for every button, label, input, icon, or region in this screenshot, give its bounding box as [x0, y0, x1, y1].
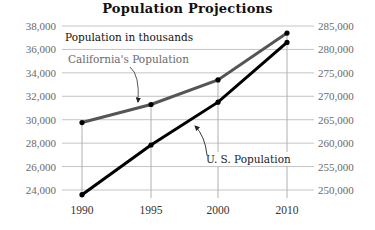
- left-axis-tick: 28,000: [26, 137, 57, 149]
- california-data-point: [79, 120, 84, 125]
- line-chart: 38,000285,00036,000280,00034,000275,0003…: [0, 0, 375, 230]
- x-axis-tick: 2000: [207, 204, 230, 216]
- us-data-point: [284, 40, 289, 45]
- x-axis-tick: 2010: [276, 204, 299, 216]
- left-axis-tick: 38,000: [26, 20, 57, 32]
- left-axis-tick: 36,000: [26, 43, 57, 55]
- right-axis-tick: 270,000: [318, 90, 354, 102]
- california-data-point: [148, 102, 153, 107]
- california-label: California's Population: [68, 53, 189, 65]
- us-data-point: [215, 100, 220, 105]
- us-data-point: [148, 142, 153, 147]
- california-population-line: [82, 33, 287, 122]
- left-axis-tick: 34,000: [26, 67, 57, 79]
- left-axis-tick: 24,000: [26, 184, 57, 196]
- right-axis-tick: 275,000: [318, 67, 354, 79]
- left-axis-tick: 30,000: [26, 114, 57, 126]
- right-axis-tick: 255,000: [318, 161, 354, 173]
- right-axis-tick: 260,000: [318, 137, 354, 149]
- left-axis-tick: 26,000: [26, 161, 57, 173]
- california-data-point: [284, 30, 289, 35]
- x-axis-tick: 1995: [140, 204, 163, 216]
- right-axis-tick: 285,000: [318, 20, 354, 32]
- right-axis-tick: 265,000: [318, 114, 354, 126]
- us-data-point: [79, 192, 84, 197]
- right-axis-tick: 250,000: [318, 184, 354, 196]
- right-axis-tick: 280,000: [318, 43, 354, 55]
- subtitle-annotation: Population in thousands: [65, 31, 193, 43]
- left-axis-tick: 32,000: [26, 90, 57, 102]
- us-label: U. S. Population: [206, 153, 291, 165]
- california-data-point: [215, 77, 220, 82]
- x-axis-tick: 1990: [71, 204, 94, 216]
- us-arrow-icon: [195, 126, 207, 155]
